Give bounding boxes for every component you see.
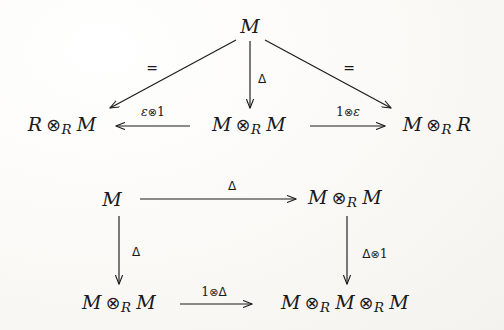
tensor-icon: ⊗ xyxy=(359,293,374,313)
tensor-icon: ⊗ xyxy=(236,115,251,135)
tensor-icon: ⊗ xyxy=(305,293,320,313)
arrow-apex-to-bottom-left xyxy=(110,40,236,108)
arrow-label-one-tensor-epsilon: 1⊗ε xyxy=(336,106,360,119)
node-counit-apex: M xyxy=(240,17,260,36)
diagram-arrows-layer xyxy=(0,0,504,330)
arrow-label-coassoc-top-delta: Δ xyxy=(228,180,236,193)
node-coassoc-top-left: M xyxy=(102,190,122,209)
delta-icon: Δ xyxy=(132,245,140,259)
delta-icon: Δ xyxy=(228,179,236,193)
delta-icon: Δ xyxy=(362,247,370,261)
tensor-icon: ⊗ xyxy=(46,115,61,135)
arrow-label-apex-left-equals: = xyxy=(146,61,158,76)
tensor-icon: ⊗ xyxy=(426,115,441,135)
arrow-label-one-tensor-delta: 1⊗Δ xyxy=(201,286,226,299)
node-label-M: M xyxy=(240,15,260,37)
node-coassoc-bottom-left: M⊗RM xyxy=(82,293,156,315)
arrow-label-epsilon-tensor-one: ε⊗1 xyxy=(141,106,165,119)
epsilon-icon: ε xyxy=(353,104,360,119)
arrow-label-delta-tensor-one: Δ⊗1 xyxy=(362,248,387,261)
tensor-icon: ⊗ xyxy=(209,286,218,299)
delta-icon: Δ xyxy=(218,285,226,299)
node-counit-bottom-left: R⊗RM xyxy=(28,115,97,137)
node-counit-bottom-mid: M⊗RM xyxy=(212,115,286,137)
tensor-icon: ⊗ xyxy=(344,106,353,119)
delta-icon: Δ xyxy=(258,72,266,86)
node-coassoc-top-right: M⊗RM xyxy=(308,188,382,210)
figure-canvas: M R⊗RM M⊗RM M⊗RR = Δ = ε⊗1 1⊗ε M M⊗RM M⊗… xyxy=(0,0,504,330)
arrow-label-apex-mid-delta: Δ xyxy=(258,73,266,86)
tensor-icon: ⊗ xyxy=(106,293,121,313)
arrow-label-apex-right-equals: = xyxy=(343,61,355,76)
epsilon-icon: ε xyxy=(141,104,148,119)
tensor-icon: ⊗ xyxy=(332,188,347,208)
node-counit-bottom-right: M⊗RR xyxy=(403,115,472,137)
arrow-apex-to-bottom-right xyxy=(265,40,391,108)
arrow-label-coassoc-left-delta: Δ xyxy=(132,246,140,259)
node-coassoc-bottom-right: M⊗RM⊗RM xyxy=(281,293,409,315)
tensor-icon: ⊗ xyxy=(148,106,157,119)
